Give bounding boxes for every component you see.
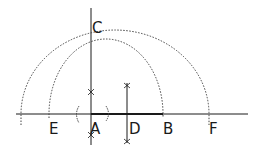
label-b: B bbox=[163, 120, 173, 138]
label-e: E bbox=[49, 120, 58, 138]
label-a: A bbox=[90, 120, 101, 138]
diagram-canvas: C E A D B F bbox=[0, 0, 258, 162]
label-c: C bbox=[92, 19, 102, 37]
construction-svg: C E A D B F bbox=[0, 0, 258, 162]
label-d: D bbox=[129, 120, 141, 138]
label-f: F bbox=[209, 120, 218, 138]
